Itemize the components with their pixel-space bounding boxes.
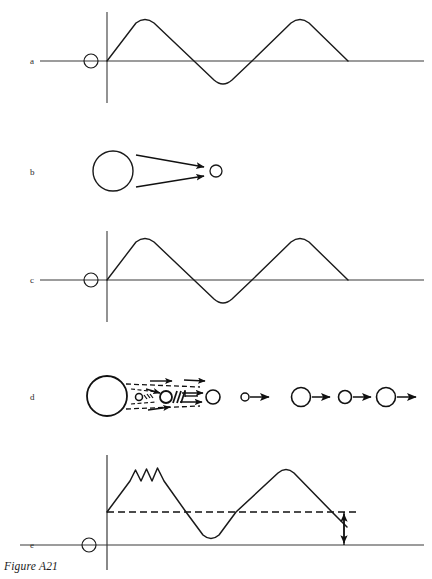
panel-d-seq-circle-1 <box>241 393 249 401</box>
panel-d-sequence <box>241 388 416 407</box>
figure-caption: Figure A21 <box>4 560 58 572</box>
panel-c: c <box>30 231 424 322</box>
panel-e: e <box>20 455 424 570</box>
panel-b-label: b <box>30 167 35 177</box>
panel-d-label: d <box>30 392 35 402</box>
panel-a-waveform <box>107 20 348 85</box>
panel-d-cone-inner-lower <box>131 402 157 404</box>
panel-d: d <box>30 376 416 416</box>
panel-a-label: a <box>30 56 34 66</box>
panel-d-hatch-1 <box>173 391 177 403</box>
panel-b: b <box>30 151 222 191</box>
panel-c-waveform <box>107 239 348 304</box>
panel-a: a <box>30 12 424 103</box>
panel-d-seq-circle-2 <box>292 388 311 407</box>
panel-d-seq-circle-4 <box>377 388 396 407</box>
panel-d-particle-small <box>136 394 143 401</box>
panel-d-flow-arrow-4 <box>184 380 205 381</box>
panel-d-particle-small-streak-1 <box>144 395 147 399</box>
figure-a21: a b c d <box>0 0 432 579</box>
panel-b-large-circle <box>93 151 133 191</box>
panel-d-particle-small-streak-3 <box>150 394 153 398</box>
panel-e-waveform <box>107 468 347 539</box>
panel-d-source-circle <box>87 376 127 416</box>
panel-d-seq-circle-3 <box>339 391 352 404</box>
top-cropped-text <box>60 0 320 5</box>
panel-c-label: c <box>30 275 34 285</box>
panel-d-cone-upper <box>126 384 200 387</box>
panel-d-particle-end <box>206 390 220 404</box>
panel-d-particle-hatched <box>160 391 172 403</box>
panel-b-arrow-upper <box>136 155 204 167</box>
figure-canvas: a b c d <box>0 0 432 579</box>
panel-d-flow-arrow-2 <box>146 389 160 393</box>
panel-b-small-circle <box>210 165 222 177</box>
panel-d-particle-small-streak-2 <box>147 394 150 398</box>
panel-b-arrow-lower <box>136 176 204 187</box>
panel-d-hatch-2 <box>177 391 181 403</box>
